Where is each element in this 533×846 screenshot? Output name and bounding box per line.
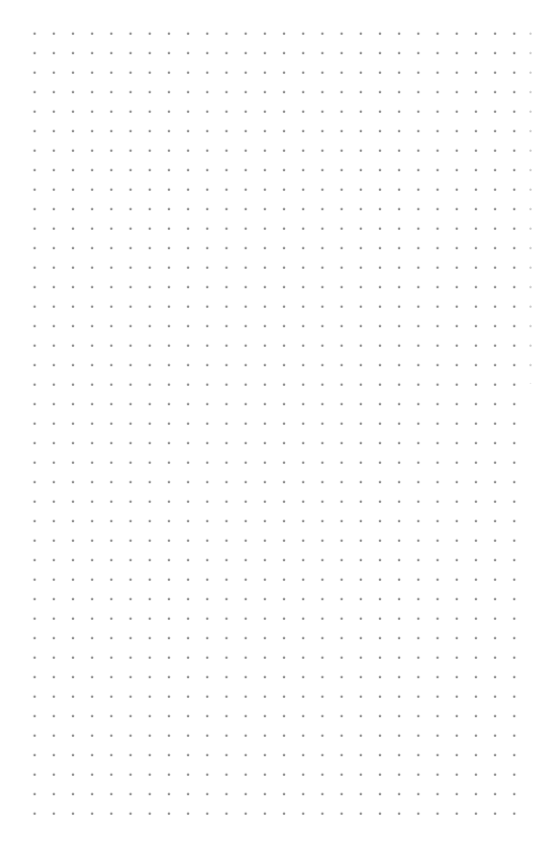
dot-grid-edge-column — [521, 24, 533, 384]
dot-grid-page — [0, 0, 533, 846]
dot-grid — [25, 24, 524, 824]
